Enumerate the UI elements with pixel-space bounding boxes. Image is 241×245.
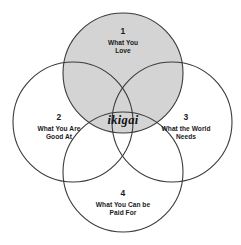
- ikigai-venn-diagram: 1 What You Love 2 What You Are Good At 3…: [0, 0, 241, 245]
- venn-circles-graphic: [0, 0, 241, 245]
- circle-love-fill: [63, 13, 183, 133]
